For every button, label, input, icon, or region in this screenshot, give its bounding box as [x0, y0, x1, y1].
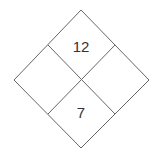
cell-top: 12 [61, 38, 101, 56]
cell-bottom: 7 [61, 104, 101, 122]
diamond-outline [0, 0, 158, 162]
